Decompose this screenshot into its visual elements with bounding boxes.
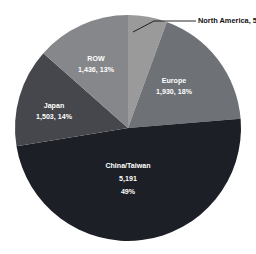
pie-label-north-america: North America, 595, 6%	[198, 16, 256, 25]
pie-chart-canvas: North America, 595, 6% Europe 1,930, 18%…	[0, 0, 256, 254]
pie-label-row-name: ROW	[87, 55, 105, 63]
pie-label-japan-name: Japan	[44, 102, 65, 110]
pie-label-europe-name: Europe	[162, 77, 186, 85]
pie-label-china-taiwan-value: 5,191	[119, 175, 137, 183]
pie-label-china-taiwan-percent: 49%	[121, 188, 136, 196]
pie-label-row-value: 1,436, 13%	[78, 66, 115, 74]
pie-label-china-taiwan-name: China/Taiwan	[105, 162, 150, 170]
pie-label-japan-value: 1,503, 14%	[36, 113, 73, 121]
pie-label-europe-value: 1,930, 18%	[156, 88, 193, 96]
pie-slices	[15, 15, 241, 241]
pie-chart: North America, 595, 6% Europe 1,930, 18%…	[0, 0, 256, 254]
